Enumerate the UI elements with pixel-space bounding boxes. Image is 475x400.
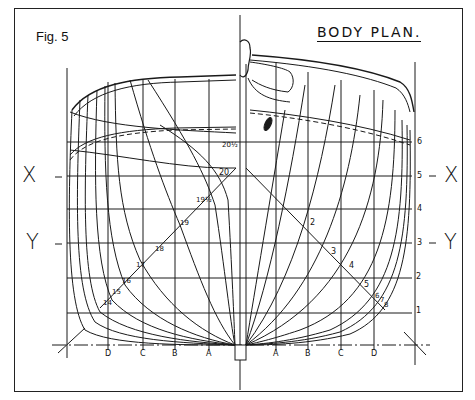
- body-plan-drawing: [0, 0, 475, 400]
- section-label-20-half: 20½: [222, 141, 238, 149]
- buttock-label-D-left: D: [105, 349, 111, 358]
- buttock-label-A-right: A: [273, 349, 278, 358]
- waterline-label-1: 1: [416, 306, 421, 315]
- waterline-label-4: 4: [417, 204, 422, 213]
- keel: [235, 345, 246, 360]
- section-label-19-half: 19½: [196, 196, 212, 204]
- section-label-20: 20: [219, 168, 229, 177]
- section-label-5: 5: [364, 280, 369, 289]
- buttock-label-D-right: D: [371, 349, 377, 358]
- drawing-title: BODY PLAN.: [317, 24, 421, 42]
- ref-y-right: Y: [444, 230, 457, 254]
- section-label-6: 6: [375, 292, 379, 300]
- ref-y-left: Y: [26, 230, 39, 254]
- section-label-14: 14: [103, 299, 112, 307]
- waterline-label-3: 3: [417, 238, 422, 247]
- section-label-16: 16: [122, 277, 131, 285]
- section-label-15: 15: [112, 288, 121, 296]
- section-label-17: 17: [136, 261, 145, 269]
- section-label-18: 18: [155, 245, 164, 253]
- buttock-label-C-left: C: [140, 349, 146, 358]
- figure-label: Fig. 5: [36, 29, 69, 44]
- waterline-label-5: 5: [417, 171, 422, 180]
- waterline-label-6: 6: [417, 137, 422, 146]
- buttock-label-B-right: B: [305, 349, 311, 358]
- section-label-2: 2: [310, 218, 315, 227]
- section-label-19: 19: [180, 219, 189, 227]
- waterline-label-2: 2: [416, 272, 421, 281]
- buttock-label-A-left: A: [206, 349, 211, 358]
- section-label-4: 4: [349, 261, 354, 270]
- section-label-8: 8: [384, 301, 388, 309]
- ref-x-right: X: [444, 163, 458, 187]
- buttock-label-B-left: B: [172, 349, 178, 358]
- buttock-label-C-right: C: [338, 349, 344, 358]
- section-label-3: 3: [331, 247, 336, 256]
- ref-x-left: X: [22, 163, 36, 187]
